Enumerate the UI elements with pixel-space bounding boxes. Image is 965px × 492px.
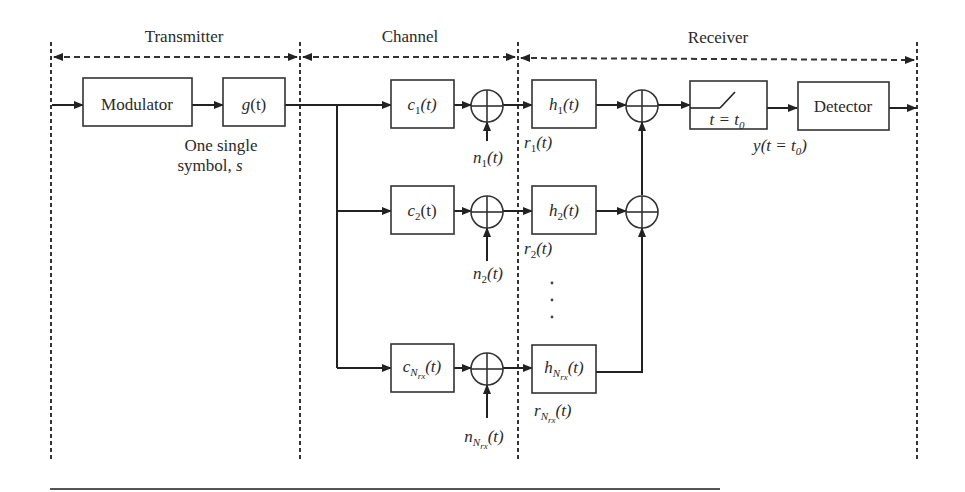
h1-label: h1(t)	[549, 95, 579, 116]
y-output-label: y(t = t0)	[751, 136, 807, 157]
section-span-arrows	[54, 57, 914, 60]
section-title-receiver: Receiver	[688, 28, 749, 47]
hN-filter-block	[532, 345, 596, 393]
combiner-adder-1-icon	[626, 90, 658, 122]
adders	[471, 90, 658, 385]
modulator-label: Modulator	[101, 95, 173, 114]
rN-label: rNrx(t)	[534, 401, 572, 425]
c2-label: c2(t)	[407, 201, 436, 222]
cN-channel-block	[391, 344, 454, 392]
adder-N-icon	[471, 353, 503, 385]
n1-label: n1(t)	[473, 148, 503, 169]
n2-label: n2(t)	[473, 264, 503, 285]
detector-label: Detector	[814, 97, 873, 116]
mimo-receiver-block-diagram: Transmitter Channel Receiver	[0, 0, 965, 492]
h2-label: h2(t)	[549, 201, 579, 222]
nN-label: nNrx(t)	[464, 427, 504, 451]
c1-label: c1(t)	[407, 95, 436, 116]
r2-label: r2(t)	[524, 239, 553, 260]
section-title-channel: Channel	[382, 27, 439, 46]
adder-2-icon	[471, 196, 503, 228]
symbol-label-line2: symbol, s	[177, 156, 243, 175]
r1-label: r1(t)	[524, 133, 553, 154]
ellipsis-dots	[551, 282, 554, 319]
receiver-span	[521, 58, 914, 60]
symbol-label-line1: One single	[184, 136, 257, 155]
g-label: g(t)	[242, 95, 267, 114]
combiner-adder-2-icon	[626, 196, 658, 228]
section-title-transmitter: Transmitter	[145, 27, 224, 46]
adder-1-icon	[471, 90, 503, 122]
